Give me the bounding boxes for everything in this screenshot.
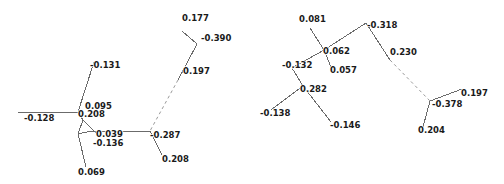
edge-solid [78,134,86,167]
node-value-label: -0.146 [330,120,360,130]
node-value-label: 0.204 [418,125,445,135]
network-diagram-svg: -0.128-0.1310.0950.2080.039-0.1360.069-0… [0,0,504,184]
edge-solid [182,31,197,44]
edge-solid [78,131,91,134]
node-value-label: -0.128 [24,113,54,123]
node-value-label: 0.208 [162,154,189,164]
left-network-labels: -0.128-0.1310.0950.2080.039-0.1360.069-0… [24,13,231,177]
right-network-labels: 0.081-0.3180.0620.057-0.1320.282-0.138-0… [260,14,488,135]
node-value-label: -0.132 [282,60,312,70]
node-value-label: 0.208 [78,109,105,119]
node-value-label: -0.136 [93,138,123,148]
node-value-label: 0.069 [78,167,105,177]
node-value-label: 0.197 [183,66,210,76]
node-value-label: 0.081 [299,14,326,24]
node-value-label: 0.057 [330,65,357,75]
edge-solid [423,101,430,127]
edge-solid [83,120,94,131]
node-value-label: -0.287 [150,130,180,140]
edge-solid [310,28,324,50]
node-value-label: -0.318 [367,20,397,30]
labels-layer: -0.128-0.1310.0950.2080.039-0.1360.069-0… [24,13,488,177]
edge-dashed [390,60,430,101]
node-value-label: 0.197 [461,88,488,98]
node-value-label: 0.230 [390,47,417,57]
edge-solid [271,86,303,110]
node-value-label: 0.062 [323,46,350,56]
edge-dashed [150,80,178,131]
right-network-edges [271,23,462,127]
node-value-label: 0.282 [300,84,327,94]
node-value-label: -0.390 [201,33,231,43]
diagram-canvas: -0.128-0.1310.0950.2080.039-0.1360.069-0… [0,0,504,184]
node-value-label: -0.138 [260,108,290,118]
edges-layer [18,23,462,167]
node-value-label: -0.131 [90,60,120,70]
node-value-label: -0.378 [432,99,462,109]
edge-solid [78,120,83,134]
node-value-label: 0.177 [182,13,209,23]
